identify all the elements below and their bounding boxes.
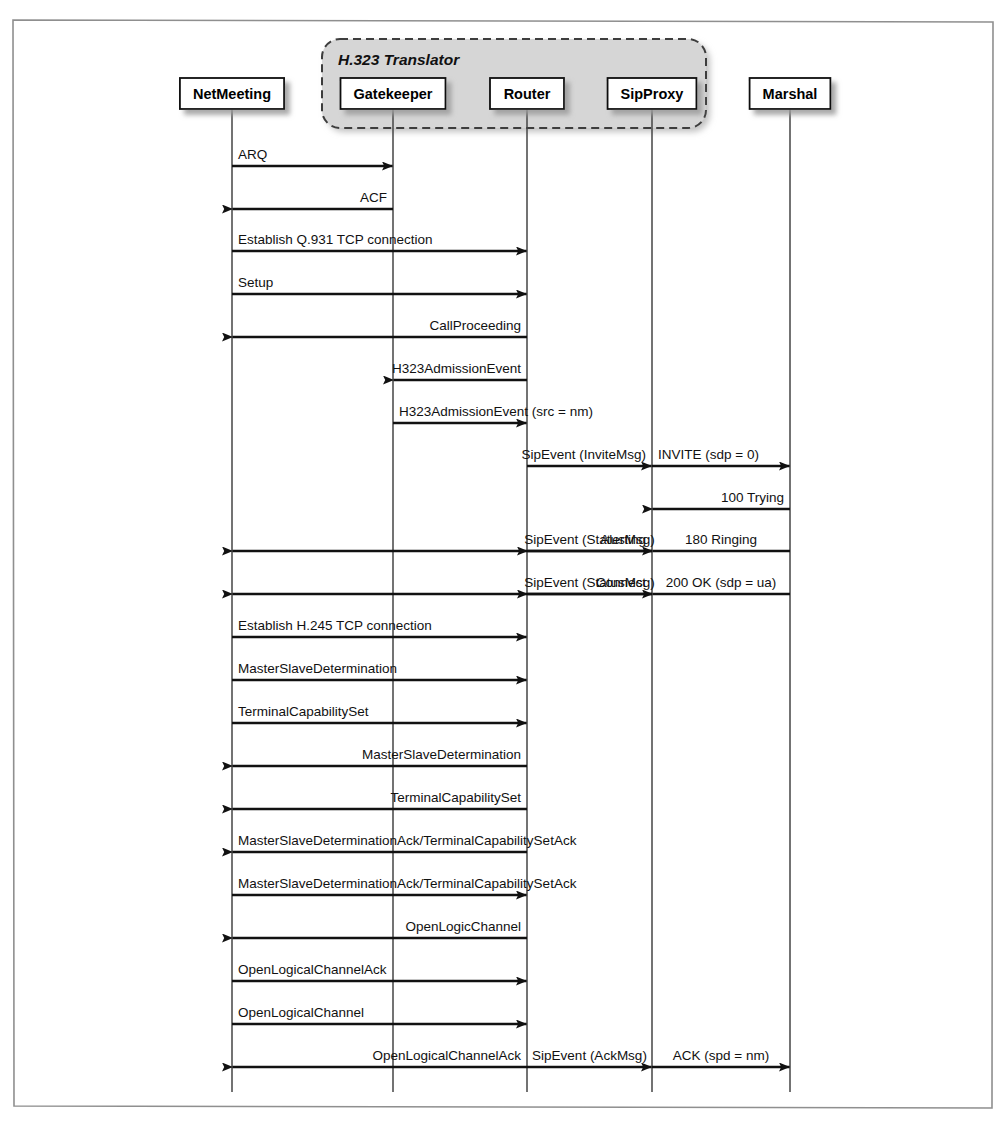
message-label: SipEvent (StatusMsg): [524, 532, 655, 547]
message-nm-to-gk[interactable]: ARQ: [232, 147, 393, 166]
actor-label: NetMeeting: [193, 86, 271, 102]
message-rt-to-nm[interactable]: MasterSlaveDetermination: [233, 747, 528, 766]
message-label: 200 OK (sdp = ua): [666, 575, 777, 590]
messages-layer: ARQACFEstablish Q.931 TCP connectionSetu…: [232, 147, 790, 1067]
message-rt-to-nm[interactable]: MasterSlaveDeterminationAck/TerminalCapa…: [233, 833, 577, 852]
message-label: TerminalCapabilitySet: [390, 790, 521, 805]
message-label: SipEvent (StatusMsg): [524, 575, 655, 590]
message-label: H323AdmissionEvent: [392, 361, 521, 376]
message-sp-to-rt[interactable]: SipEvent (StatusMsg): [524, 575, 655, 594]
message-label: ACK (spd = nm): [673, 1048, 769, 1063]
message-rt-to-sp[interactable]: SipEvent (AckMsg): [527, 1048, 652, 1067]
message-label: 180 Ringing: [685, 532, 757, 547]
actor-label: SipProxy: [621, 86, 684, 102]
message-label: Setup: [238, 275, 273, 290]
message-label: OpenLogicalChannelAck: [238, 962, 387, 977]
message-gk-to-rt[interactable]: H323AdmissionEvent (src = nm): [393, 404, 593, 423]
message-sp-to-ms[interactable]: INVITE (sdp = 0): [652, 447, 790, 466]
sequence-diagram-page: H.323 Translator NetMeetingGatekeeperRou…: [0, 0, 1004, 1124]
message-nm-to-rt[interactable]: Establish Q.931 TCP connection: [232, 232, 527, 251]
message-rt-to-sp[interactable]: SipEvent (InviteMsg): [521, 447, 651, 466]
actor-label: Marshal: [763, 86, 818, 102]
message-label: TerminalCapabilitySet: [238, 704, 369, 719]
message-rt-to-nm[interactable]: TerminalCapabilitySet: [233, 790, 528, 809]
message-label: H323AdmissionEvent (src = nm): [399, 404, 593, 419]
message-ms-to-sp[interactable]: 180 Ringing: [653, 532, 791, 551]
group-label: H.323 Translator: [338, 51, 460, 68]
message-ms-to-sp[interactable]: 200 OK (sdp = ua): [653, 575, 791, 594]
message-label: ACF: [360, 190, 387, 205]
message-rt-to-nm[interactable]: OpenLogicChannel: [233, 919, 528, 938]
message-label: OpenLogicalChannel: [238, 1005, 364, 1020]
message-label: 100 Trying: [721, 490, 784, 505]
message-nm-to-rt[interactable]: Establish H.245 TCP connection: [232, 618, 527, 637]
message-label: Establish H.245 TCP connection: [238, 618, 432, 633]
message-label: INVITE (sdp = 0): [658, 447, 759, 462]
message-label: MasterSlaveDeterminationAck/TerminalCapa…: [238, 833, 577, 848]
message-nm-to-rt[interactable]: MasterSlaveDeterminationAck/TerminalCapa…: [232, 876, 577, 895]
message-nm-to-rt[interactable]: TerminalCapabilitySet: [232, 704, 527, 723]
message-label: MasterSlaveDeterminationAck/TerminalCapa…: [238, 876, 577, 891]
message-label: OpenLogicChannel: [405, 919, 521, 934]
message-sp-to-rt[interactable]: SipEvent (StatusMsg): [524, 532, 655, 551]
message-rt-to-nm[interactable]: CallProceeding: [233, 318, 528, 337]
message-label: SipEvent (InviteMsg): [521, 447, 646, 462]
lifeline-nm[interactable]: NetMeeting: [180, 78, 284, 1092]
message-sp-to-ms[interactable]: ACK (spd = nm): [652, 1048, 790, 1067]
message-rt-to-nm[interactable]: OpenLogicalChannelAck: [233, 1048, 528, 1067]
message-label: MasterSlaveDetermination: [362, 747, 521, 762]
actor-label: Router: [504, 86, 551, 102]
message-nm-to-rt[interactable]: OpenLogicalChannelAck: [232, 962, 527, 981]
message-label: MasterSlaveDetermination: [238, 661, 397, 676]
message-label: CallProceeding: [429, 318, 521, 333]
figure-frame: [13, 20, 993, 1108]
message-rt-to-gk[interactable]: H323AdmissionEvent: [392, 361, 527, 380]
message-label: Establish Q.931 TCP connection: [238, 232, 433, 247]
message-nm-to-rt[interactable]: OpenLogicalChannel: [232, 1005, 527, 1024]
message-ms-to-sp[interactable]: 100 Trying: [653, 490, 791, 509]
message-gk-to-nm[interactable]: ACF: [233, 190, 394, 209]
message-label: ARQ: [238, 147, 267, 162]
sequence-diagram-canvas: H.323 Translator NetMeetingGatekeeperRou…: [0, 0, 1004, 1124]
actor-label: Gatekeeper: [354, 86, 433, 102]
message-nm-to-rt[interactable]: Setup: [232, 275, 527, 294]
lifeline-gk[interactable]: Gatekeeper: [341, 78, 446, 1092]
message-label: SipEvent (AckMsg): [532, 1048, 647, 1063]
message-label: OpenLogicalChannelAck: [372, 1048, 521, 1063]
message-nm-to-rt[interactable]: MasterSlaveDetermination: [232, 661, 527, 680]
